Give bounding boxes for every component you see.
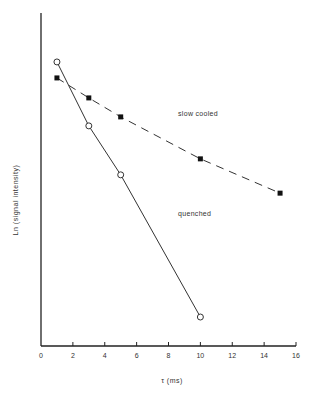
y-axis-title: Ln (signal intensity) bbox=[12, 165, 20, 236]
data-point-circle bbox=[118, 172, 124, 178]
x-tick-label: 0 bbox=[39, 352, 43, 359]
series-line bbox=[57, 62, 200, 317]
x-tick-label: 8 bbox=[167, 352, 171, 359]
data-point-square bbox=[118, 114, 123, 119]
data-point-square bbox=[198, 156, 203, 161]
x-tick-label: 16 bbox=[292, 352, 300, 359]
series-slow-cooled bbox=[54, 75, 282, 195]
x-tick-label: 10 bbox=[196, 352, 204, 359]
x-tick-label: 12 bbox=[228, 352, 236, 359]
series-layer bbox=[54, 59, 283, 320]
series-quenched bbox=[54, 59, 203, 320]
x-tick-label: 4 bbox=[103, 352, 107, 359]
x-axis-title: τ (ms) bbox=[161, 377, 183, 385]
data-point-square bbox=[86, 95, 91, 100]
data-point-circle bbox=[197, 314, 203, 320]
x-tick-label: 2 bbox=[71, 352, 75, 359]
x-tick-label: 6 bbox=[135, 352, 139, 359]
data-point-circle bbox=[86, 123, 92, 129]
annotation-label: quenched bbox=[178, 210, 211, 218]
chart: 0246810121416 slow cooledquenched τ (ms)… bbox=[0, 0, 310, 402]
x-tick-label: 14 bbox=[260, 352, 268, 359]
series-line bbox=[57, 78, 280, 193]
annotations: slow cooledquenched bbox=[178, 110, 218, 218]
annotation-label: slow cooled bbox=[178, 110, 218, 117]
data-point-square bbox=[54, 75, 59, 80]
axes: 0246810121416 bbox=[39, 13, 300, 359]
data-point-circle bbox=[54, 59, 60, 65]
data-point-square bbox=[278, 191, 283, 196]
